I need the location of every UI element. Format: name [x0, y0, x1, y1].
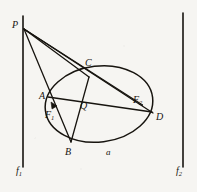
- point-label-f2: F2: [133, 95, 142, 105]
- directrix-label-f1: f1: [16, 166, 22, 176]
- point-label-f1: F1: [45, 110, 54, 120]
- curve-label-a: a: [106, 148, 111, 157]
- focus-marker-f1: [51, 102, 57, 109]
- point-label-d: D: [156, 112, 163, 122]
- point-label-q: Q: [80, 101, 87, 111]
- point-label-a: A: [39, 91, 45, 101]
- point-label-f1-sub: 1: [51, 114, 54, 121]
- point-label-b: B: [65, 147, 71, 157]
- figure-canvas: [0, 0, 197, 192]
- point-label-p: P: [12, 20, 18, 30]
- directrix-label-f1-sub: 1: [19, 170, 22, 177]
- geometry-figure: P A B C D Q F1 F2 a f1 f2: [0, 0, 197, 192]
- directrix-label-f2: f2: [176, 166, 182, 176]
- directrix-label-f2-sub: 2: [179, 170, 182, 177]
- point-label-c: C: [85, 58, 92, 68]
- point-label-f2-sub: 2: [139, 99, 142, 106]
